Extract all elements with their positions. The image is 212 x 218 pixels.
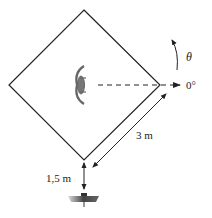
insect-icon <box>76 66 86 104</box>
distance-label: 1,5 m <box>46 172 72 184</box>
rotation-arrow <box>172 40 177 70</box>
theta-label: θ <box>186 50 192 64</box>
zero-angle-label: 0° <box>186 79 196 91</box>
source-icon <box>68 193 99 207</box>
side-length-label: 3 m <box>136 129 153 141</box>
side-dimension-line <box>93 94 166 167</box>
diagram-canvas: 0° θ 3 m 1,5 m <box>0 0 212 218</box>
